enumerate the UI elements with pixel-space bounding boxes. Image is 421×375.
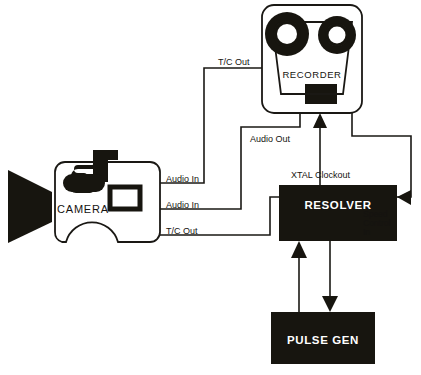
- recorder-slot-bar-lower: [305, 95, 337, 104]
- label-xtal-clockout: XTAL Clockout: [291, 170, 351, 180]
- label-tc-out-top: T/C Out: [218, 57, 250, 67]
- camera-handle-base-icon: [63, 174, 105, 192]
- arrowhead-pulsegen-into-resolver: [291, 241, 307, 258]
- resolver-label: RESOLVER: [304, 199, 371, 211]
- label-audio-in-upper: Audio In: [166, 174, 199, 184]
- camera-node[interactable]: CAMERA: [8, 150, 160, 243]
- label-audio-out: Audio Out: [250, 134, 291, 144]
- recorder-label: RECORDER: [282, 69, 341, 80]
- label-tc-out-camera: T/C Out: [166, 226, 198, 236]
- arrowhead-resolver-into-pulsegen: [322, 296, 338, 312]
- wire-tc-out-top: [160, 68, 262, 183]
- pulse-gen-label: PULSE GEN: [287, 334, 359, 346]
- system-block-diagram: RECORDER CAMERA RESOLVER PULSE GEN T/C O…: [0, 0, 421, 375]
- recorder-slot-bar-upper: [305, 84, 337, 93]
- arrowhead-speed-control-in: [397, 190, 411, 205]
- label-speed-control-line3: In: [363, 227, 370, 237]
- arrowhead-xtal-into-recorder: [313, 113, 327, 128]
- recorder-reel-right-icon: [318, 16, 356, 54]
- recorder-reel-left-icon: [265, 12, 309, 56]
- wire-speed-control-in: [352, 113, 411, 197]
- label-audio-in-lower: Audio In: [166, 200, 199, 210]
- recorder-node[interactable]: RECORDER: [262, 5, 362, 113]
- camera-lens-icon: [8, 170, 52, 243]
- camera-label: CAMERA: [57, 203, 109, 215]
- pulse-gen-node[interactable]: PULSE GEN: [271, 312, 375, 364]
